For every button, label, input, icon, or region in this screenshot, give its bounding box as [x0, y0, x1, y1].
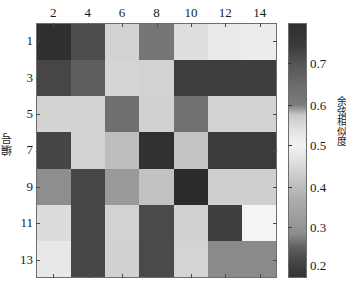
x-axis-tick-mark-bottom: [157, 274, 158, 278]
heatmap-cell: [208, 60, 242, 96]
heatmap-cell: [174, 24, 208, 60]
heatmap-cell: [174, 205, 208, 241]
x-axis-tick-mark-bottom: [260, 274, 261, 278]
x-axis-tick-mark-bottom: [88, 274, 89, 278]
y-axis-tick-mark-right: [273, 41, 277, 42]
y-tick-label-4: 7: [14, 132, 33, 168]
x-axis-tick-mark: [53, 23, 54, 27]
x-tick-label-4: 8: [139, 4, 173, 21]
heatmap-grid: [37, 24, 276, 277]
heatmap-cell: [71, 205, 105, 241]
x-tick-label-5: 10: [174, 4, 208, 21]
colorbar-tick-mark: [288, 265, 292, 266]
y-axis-tick-mark-right: [273, 223, 277, 224]
y-axis-tick-mark-right: [273, 114, 277, 115]
x-axis-tick-mark: [88, 23, 89, 27]
colorbar-tick-label: 0.2: [310, 259, 326, 272]
y-tick-label-1: 1: [14, 23, 33, 59]
x-axis-tick-mark: [122, 23, 123, 27]
heatmap-cell: [242, 169, 276, 205]
heatmap-cell: [139, 241, 173, 277]
heatmap-cell: [208, 96, 242, 132]
heatmap-cell: [139, 132, 173, 168]
colorbar-tick-label: 0.5: [310, 139, 326, 152]
y-axis-tick-mark: [36, 41, 40, 42]
heatmap-cell: [139, 96, 173, 132]
heatmap-cell: [139, 169, 173, 205]
colorbar-tick-label: 0.6: [310, 99, 326, 112]
heatmap-cell: [37, 205, 71, 241]
heatmap-cell: [105, 60, 139, 96]
heatmap-cell: [174, 60, 208, 96]
x-tick-label-1: 2: [36, 4, 70, 21]
x-axis-tick-mark: [225, 23, 226, 27]
x-axis-tick-mark-bottom: [191, 274, 192, 278]
heatmap-cell: [71, 169, 105, 205]
y-axis-tick-mark: [36, 260, 40, 261]
heatmap-cell: [37, 169, 71, 205]
heatmap-cell: [71, 96, 105, 132]
heatmap-cell: [105, 96, 139, 132]
y-axis-tick-mark: [36, 223, 40, 224]
y-tick-label-3: 5: [14, 96, 33, 132]
x-axis-tick-labels: 2 4 6 8 10 12 14: [36, 4, 277, 21]
heatmap-cell: [242, 96, 276, 132]
colorbar-tick-mark: [288, 227, 292, 228]
y-tick-label-5: 9: [14, 169, 33, 205]
heatmap-cell: [139, 24, 173, 60]
y-axis-tick-mark-right: [273, 151, 277, 152]
heatmap-cell: [174, 169, 208, 205]
heatmap-cell: [208, 169, 242, 205]
x-axis-tick-mark-bottom: [53, 274, 54, 278]
colorbar-title: 余弦相似度: [333, 96, 346, 146]
heatmap-cell: [37, 60, 71, 96]
x-axis-tick-mark: [191, 23, 192, 27]
heatmap-cell: [37, 96, 71, 132]
x-tick-label-2: 4: [70, 4, 104, 21]
y-axis-tick-mark-right: [273, 260, 277, 261]
colorbar-tick-label: 0.7: [310, 57, 326, 70]
heatmap-cell: [242, 132, 276, 168]
heatmap-cell: [37, 132, 71, 168]
colorbar-tick-mark: [288, 145, 292, 146]
heatmap-cell: [71, 241, 105, 277]
heatmap-cell: [208, 132, 242, 168]
x-axis-tick-mark: [157, 23, 158, 27]
colorbar-tick-label: 0.3: [310, 221, 326, 234]
heatmap-cell: [105, 132, 139, 168]
colorbar-tick-mark: [288, 105, 292, 106]
y-axis-title: 编号: [1, 132, 15, 156]
y-axis-tick-mark: [36, 114, 40, 115]
y-axis-tick-mark-right: [273, 187, 277, 188]
heatmap-cell: [105, 241, 139, 277]
heatmap-cell: [105, 205, 139, 241]
heatmap-cell: [71, 132, 105, 168]
x-axis-tick-mark-bottom: [122, 274, 123, 278]
x-axis-tick-mark: [260, 23, 261, 27]
x-tick-label-7: 14: [243, 4, 277, 21]
y-axis-tick-mark-right: [273, 78, 277, 79]
heatmap-cell: [71, 60, 105, 96]
heatmap-cell: [174, 241, 208, 277]
heatmap-cell: [71, 24, 105, 60]
x-tick-label-3: 6: [105, 4, 139, 21]
x-tick-label-6: 12: [208, 4, 242, 21]
heatmap-cell: [242, 60, 276, 96]
heatmap-cell: [105, 24, 139, 60]
heatmap-cell: [139, 60, 173, 96]
heatmap-cell: [37, 241, 71, 277]
y-tick-label-2: 3: [14, 59, 33, 95]
y-axis-tick-mark: [36, 151, 40, 152]
colorbar: [288, 23, 307, 278]
colorbar-tick-mark: [288, 63, 292, 64]
heatmap-cell: [242, 24, 276, 60]
heatmap-cell: [174, 96, 208, 132]
colorbar-gradient: [289, 24, 306, 277]
heatmap-figure: 2 4 6 8 10 12 14 1 3 5 7 9 11 13 编号 余弦相似…: [0, 0, 346, 296]
x-axis-tick-mark-bottom: [225, 274, 226, 278]
y-tick-label-6: 11: [14, 205, 33, 241]
y-axis-tick-mark: [36, 78, 40, 79]
heatmap-cell: [139, 205, 173, 241]
heatmap-cell: [174, 132, 208, 168]
y-axis-tick-mark: [36, 187, 40, 188]
